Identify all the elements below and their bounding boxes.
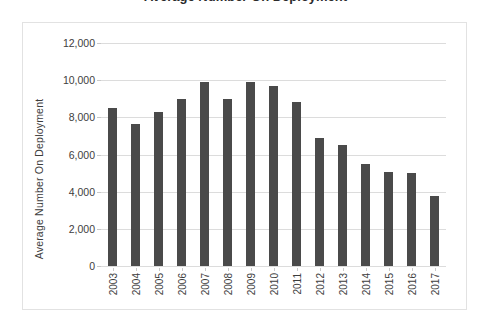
x-axis-tick-mark — [228, 268, 229, 271]
bar-2017 — [430, 196, 439, 266]
x-axis-tick-label-2016: 2016 — [406, 273, 417, 295]
bar-2005 — [154, 112, 163, 266]
x-axis-tick-mark — [159, 268, 160, 271]
bar-slot — [216, 43, 239, 266]
chart-screenshot: Average Number On Deployment Average Num… — [0, 0, 491, 330]
x-axis-slot: 2008 — [216, 268, 239, 310]
bar-slot — [101, 43, 124, 266]
y-axis-tick-label: 8,000 — [69, 111, 95, 123]
gridline — [101, 266, 446, 267]
bar-slot — [308, 43, 331, 266]
y-axis-tick-label: 4,000 — [69, 186, 95, 198]
x-axis-tick-label-2005: 2005 — [153, 273, 164, 295]
x-axis-tick-label-2007: 2007 — [199, 273, 210, 295]
bars-group — [101, 43, 446, 266]
y-axis-tick-label: 12,000 — [63, 37, 95, 49]
x-axis-tick-label-2006: 2006 — [176, 273, 187, 295]
x-axis-tick-label-2003: 2003 — [107, 273, 118, 295]
x-axis-tick-mark — [136, 268, 137, 271]
bar-slot — [285, 43, 308, 266]
x-axis-tick-mark — [113, 268, 114, 271]
bar-slot — [354, 43, 377, 266]
bar-slot — [239, 43, 262, 266]
chart-plot-frame: Average Number On Deployment 02,0004,000… — [22, 22, 467, 310]
bar-2008 — [223, 99, 232, 266]
x-axis-slot: 2017 — [423, 268, 446, 310]
bar-2010 — [269, 86, 278, 266]
chart-title-text: Average Number On Deployment — [0, 0, 491, 4]
bar-2006 — [177, 99, 186, 266]
x-axis-slot: 2011 — [285, 268, 308, 310]
bar-slot — [193, 43, 216, 266]
x-axis-slot: 2013 — [331, 268, 354, 310]
y-axis-tick-label: 10,000 — [63, 74, 95, 86]
y-axis-tick-label: 0 — [89, 260, 95, 272]
x-axis-tick-label-2013: 2013 — [337, 273, 348, 295]
bar-slot — [262, 43, 285, 266]
bar-2009 — [246, 82, 255, 266]
bar-2003 — [108, 108, 117, 266]
bar-2012 — [315, 138, 324, 266]
x-axis-slot: 2009 — [239, 268, 262, 310]
x-axis-tick-label-2014: 2014 — [360, 273, 371, 295]
x-axis-tick-label-2011: 2011 — [291, 273, 302, 295]
y-axis-tick-label: 6,000 — [69, 149, 95, 161]
bar-slot — [170, 43, 193, 266]
x-axis-slot: 2010 — [262, 268, 285, 310]
x-axis-labels-group: 2003200420052006200720082009201020112012… — [101, 268, 446, 310]
x-axis-slot: 2004 — [124, 268, 147, 310]
bar-slot — [124, 43, 147, 266]
y-axis-tick-mark — [97, 266, 101, 267]
x-axis-tick-mark — [389, 268, 390, 271]
x-axis-tick-label-2010: 2010 — [268, 273, 279, 295]
x-axis-tick-mark — [297, 268, 298, 271]
x-axis-tick-label-2004: 2004 — [130, 273, 141, 295]
bar-2014 — [361, 164, 370, 266]
bar-slot — [331, 43, 354, 266]
x-axis-tick-label-2015: 2015 — [383, 273, 394, 295]
x-axis-slot: 2003 — [101, 268, 124, 310]
bar-slot — [147, 43, 170, 266]
x-axis-tick-mark — [182, 268, 183, 271]
x-axis-slot: 2015 — [377, 268, 400, 310]
plot-area: 02,0004,0006,0008,00010,00012,000 — [101, 43, 446, 266]
x-axis-tick-mark — [412, 268, 413, 271]
x-axis-tick-mark — [366, 268, 367, 271]
x-axis-tick-mark — [343, 268, 344, 271]
x-axis-tick-label-2017: 2017 — [429, 273, 440, 295]
bar-slot — [377, 43, 400, 266]
x-axis-tick-mark — [320, 268, 321, 271]
bar-2015 — [384, 172, 393, 266]
bar-slot — [400, 43, 423, 266]
x-axis-tick-mark — [251, 268, 252, 271]
bar-2013 — [338, 145, 347, 266]
bar-2007 — [200, 82, 209, 266]
x-axis-slot: 2014 — [354, 268, 377, 310]
x-axis-tick-mark — [435, 268, 436, 271]
x-axis-tick-label-2008: 2008 — [222, 273, 233, 295]
bar-slot — [423, 43, 446, 266]
y-axis-tick-label: 2,000 — [69, 223, 95, 235]
x-axis-tick-label-2012: 2012 — [314, 273, 325, 295]
bar-2016 — [407, 173, 416, 266]
y-axis-title: Average Number On Deployment — [33, 79, 51, 279]
x-axis-tick-mark — [274, 268, 275, 271]
x-axis-tick-label-2009: 2009 — [245, 273, 256, 295]
x-axis-slot: 2012 — [308, 268, 331, 310]
x-axis-slot: 2016 — [400, 268, 423, 310]
bar-2004 — [131, 124, 140, 266]
x-axis-slot: 2006 — [170, 268, 193, 310]
x-axis-tick-mark — [205, 268, 206, 271]
x-axis-slot: 2005 — [147, 268, 170, 310]
chart-title-clipped: Average Number On Deployment — [0, 0, 491, 9]
bar-2011 — [292, 102, 301, 266]
x-axis-slot: 2007 — [193, 268, 216, 310]
